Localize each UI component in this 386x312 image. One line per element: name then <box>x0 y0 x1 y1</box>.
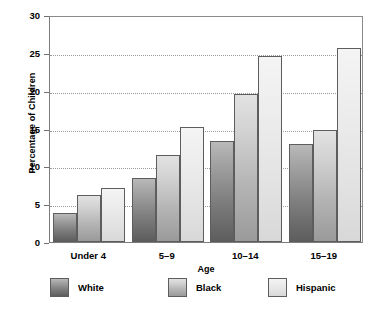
y-tick-label: 25 <box>0 49 40 59</box>
legend-swatch-hispanic <box>268 278 287 297</box>
legend-label: White <box>78 282 104 293</box>
y-axis-title: Percentage of Children <box>27 33 37 213</box>
bar-group <box>210 17 282 242</box>
y-tick-label: 5 <box>0 200 40 210</box>
bar-chart: Percentage of Children 051015202530 Unde… <box>0 0 386 312</box>
bar-black-1 <box>156 155 180 242</box>
legend-label: Black <box>196 282 221 293</box>
x-axis-title: Age <box>49 264 363 274</box>
bar-group <box>289 17 361 242</box>
legend-item-black[interactable]: Black <box>168 278 221 297</box>
y-tick-mark <box>44 243 49 244</box>
x-tick-label: 10–14 <box>205 250 285 261</box>
y-tick-label: 20 <box>0 87 40 97</box>
bar-white-2 <box>210 141 234 242</box>
bar-hispanic-3 <box>337 48 361 242</box>
x-tick-label: Under 4 <box>48 250 128 261</box>
x-tick-label: 15–19 <box>284 250 364 261</box>
legend-item-white[interactable]: White <box>50 278 104 297</box>
bar-white-1 <box>132 178 156 242</box>
bar-white-0 <box>53 213 77 242</box>
x-tick-label: 5–9 <box>127 250 207 261</box>
bar-group <box>53 17 125 242</box>
bar-group <box>132 17 204 242</box>
y-tick-label: 0 <box>0 238 40 248</box>
y-tick-label: 30 <box>0 11 40 21</box>
bar-hispanic-0 <box>101 188 125 242</box>
legend-label: Hispanic <box>296 282 336 293</box>
legend-swatch-black <box>168 278 187 297</box>
y-tick-label: 10 <box>0 162 40 172</box>
chart-legend: WhiteBlackHispanic <box>0 278 386 304</box>
y-tick-label: 15 <box>0 125 40 135</box>
bar-hispanic-2 <box>258 56 282 242</box>
legend-item-hispanic[interactable]: Hispanic <box>268 278 336 297</box>
bar-black-0 <box>77 195 101 242</box>
plot-area <box>49 16 363 243</box>
bar-hispanic-1 <box>180 127 204 242</box>
legend-swatch-white <box>50 278 69 297</box>
bar-black-3 <box>313 130 337 242</box>
bar-black-2 <box>234 94 258 242</box>
bar-white-3 <box>289 144 313 242</box>
